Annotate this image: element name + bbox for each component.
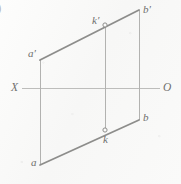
label-k-point: k (103, 134, 108, 145)
label-a-prime: a′ (28, 48, 36, 59)
label-a-point: a (31, 157, 37, 168)
label-b-prime: b′ (143, 4, 151, 15)
marker-k (103, 128, 107, 132)
label-k-prime: k′ (92, 15, 99, 26)
label-b-point: b (143, 112, 149, 123)
edge-a-b (40, 120, 139, 165)
label-x-axis-left: X (11, 82, 18, 94)
edge-a-prime-b-prime (40, 10, 139, 60)
marker-k-prime (103, 23, 107, 27)
projection-drawing (0, 0, 181, 184)
figure-canvas: ) b′ k′ a′ X O b k a (0, 0, 181, 184)
label-o-axis-right: O (163, 82, 171, 94)
